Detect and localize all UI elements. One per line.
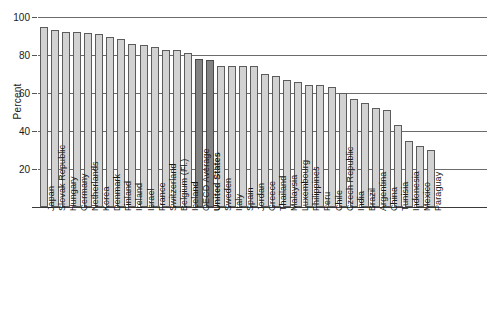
- y-axis-tick-mark: [32, 93, 37, 94]
- x-axis-tick-label: Slovak Republic: [58, 145, 67, 211]
- x-axis-tick-label: Korea: [102, 186, 111, 211]
- x-axis-tick-label: Argentina: [379, 172, 388, 211]
- x-axis-tick-label: Indonesia: [412, 171, 421, 211]
- x-axis-tick-label: Jordan: [257, 183, 266, 211]
- y-axis-tick-mark: [32, 169, 37, 170]
- y-axis-tick-label: 40: [0, 126, 30, 137]
- y-axis-tick-mark: [32, 55, 37, 56]
- x-axis-tick-label: Italy: [235, 194, 244, 211]
- bar-chart: Percent 20406080100 JapanSlovak Republic…: [0, 0, 496, 311]
- x-axis-tick-label: OECD Average: [202, 148, 211, 211]
- x-axis-tick-label: France: [158, 182, 167, 211]
- bar: [40, 27, 48, 208]
- y-axis-tick-label: 20: [0, 164, 30, 175]
- x-axis-tick-label: Switzerland: [169, 163, 178, 211]
- x-axis-tick-label: Paraguay: [434, 172, 443, 211]
- y-axis-tick-label: 80: [0, 50, 30, 61]
- x-axis-tick-label: Tunisia: [401, 182, 410, 211]
- y-axis-tick-label: 100: [0, 12, 30, 23]
- y-axis-tick-label: 60: [0, 88, 30, 99]
- x-axis-tick-label: Greece: [268, 181, 277, 211]
- x-axis-tick-label: China: [390, 187, 399, 211]
- x-axis-tick-label: Chile: [335, 190, 344, 211]
- x-axis-tick-label: Denmark: [113, 174, 122, 211]
- x-axis-tick-label: Germany: [80, 173, 89, 211]
- x-axis-tick-label: Peru: [323, 192, 332, 211]
- x-axis-tick-label: Netherlands: [91, 161, 100, 211]
- x-axis-tick-label: Thailand: [279, 176, 288, 211]
- x-axis-tick-label: United States: [213, 152, 222, 211]
- y-axis-tick-mark: [32, 17, 37, 18]
- x-axis-tick-label: Sweden: [224, 178, 233, 211]
- x-axis-tick-label: Japan: [47, 186, 56, 211]
- x-axis-tick-label: Malaysia: [290, 175, 299, 211]
- x-axis-tick-label: Hungary: [69, 176, 78, 211]
- x-axis-tick-label: Brazil: [368, 188, 377, 211]
- x-axis-tick-label: Belgium (Fl.): [180, 159, 189, 211]
- x-axis-tick-label: Philippines: [312, 166, 321, 211]
- x-axis-tick-label: Iceland: [191, 181, 200, 211]
- x-axis-tick-label: Spain: [246, 187, 255, 211]
- x-axis-tick-label: Finland: [124, 181, 133, 211]
- bar: [239, 66, 247, 207]
- x-axis-tick-label: Mexico: [423, 182, 432, 211]
- x-axis-tick-label: Luxembourg: [301, 160, 310, 211]
- x-axis-tick-label: Czech Republic: [346, 147, 355, 211]
- y-axis-tick-mark: [32, 131, 37, 132]
- x-axis-tick-label: Israel: [147, 188, 156, 211]
- x-axis-tick-label: India: [357, 191, 366, 211]
- x-axis-tick-label: Ireland: [135, 183, 144, 211]
- x-axis-labels: JapanSlovak RepublicHungaryGermanyNether…: [38, 208, 487, 311]
